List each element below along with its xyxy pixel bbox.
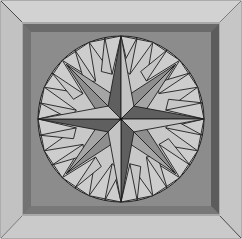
quilt-illustration (0, 0, 242, 239)
frame-bottom-bevel (1, 216, 241, 238)
center-dot (119, 117, 122, 120)
frame-top-bevel (1, 1, 241, 22)
frame-right-bevel (220, 1, 241, 238)
compass-quilt-block (0, 0, 242, 239)
frame-left-bevel (1, 1, 22, 238)
compass-rose (38, 36, 204, 202)
